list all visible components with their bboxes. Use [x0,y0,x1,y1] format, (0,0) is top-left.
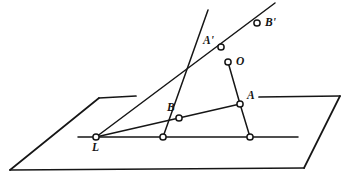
point-markers [93,20,260,140]
plane-edge-left [10,98,99,170]
point-marker-b0 [160,134,166,140]
point-marker-B [176,115,182,121]
plane-edge-bottom [10,168,304,170]
point-label-B-prime: B' [265,17,276,29]
plane-edge-top-left [99,96,136,98]
point-marker-Aprime [218,44,224,50]
line-through-Aprime-B [163,10,208,137]
point-label-B: B [167,102,175,114]
point-marker-L [93,134,99,140]
point-label-A: A [247,90,255,102]
point-marker-Bprime [254,20,260,26]
plane-edge-right [304,96,340,168]
point-label-L: L [92,142,99,154]
segment-O-to-A [228,62,240,104]
plane-edge-top-right [259,96,340,97]
point-marker-O [225,59,231,65]
figure-canvas [0,0,348,179]
point-label-A-prime: A' [203,35,214,47]
point-label-O: O [236,56,245,68]
reference-plane [10,96,340,170]
point-marker-A [237,101,243,107]
geometry-figure: L B A O A' B' [0,0,348,179]
segment-A-to-foot [240,104,250,137]
point-marker-a0 [247,134,253,140]
